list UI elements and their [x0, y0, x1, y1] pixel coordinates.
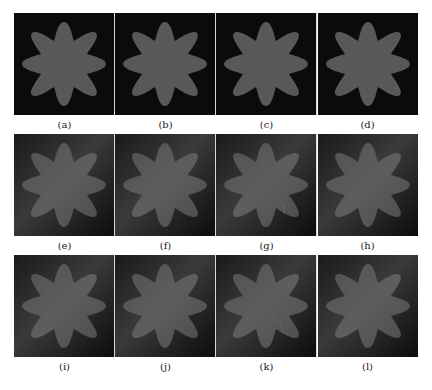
- panel-k: (k): [216, 255, 317, 376]
- star-shape-image: [216, 134, 316, 236]
- panel-b: (b): [115, 13, 216, 134]
- star-shape-image: [318, 13, 418, 115]
- panel-l: (l): [317, 255, 418, 376]
- panel-caption: (i): [14, 357, 115, 376]
- panel-caption: (f): [115, 236, 216, 255]
- star-shape-image: [115, 13, 215, 115]
- image-panel: [318, 134, 418, 236]
- panel-caption: (k): [216, 357, 317, 376]
- panel-d: (d): [317, 13, 418, 134]
- panel-caption: (l): [317, 357, 418, 376]
- image-panel: [216, 13, 317, 115]
- image-grid-figure: (a) (b) (c): [14, 13, 418, 376]
- star-shape-image: [318, 255, 418, 357]
- star-shape-image: [318, 134, 418, 236]
- panel-i: (i): [14, 255, 115, 376]
- image-panel: [318, 255, 418, 357]
- star-shape-image: [14, 255, 114, 357]
- image-panel: [216, 255, 317, 357]
- panel-caption: (d): [317, 115, 418, 134]
- panel-c: (c): [216, 13, 317, 134]
- image-panel: [318, 13, 418, 115]
- image-panel: [115, 134, 216, 236]
- image-panel: [14, 255, 115, 357]
- panel-caption: (g): [216, 236, 317, 255]
- image-panel: [14, 13, 115, 115]
- panel-e: (e): [14, 134, 115, 255]
- panel-f: (f): [115, 134, 216, 255]
- figure-row-1: (a) (b) (c): [14, 13, 418, 134]
- image-panel: [14, 134, 115, 236]
- panel-caption: (b): [115, 115, 216, 134]
- star-shape-image: [216, 255, 316, 357]
- panel-a: (a): [14, 13, 115, 134]
- panel-caption: (e): [14, 236, 115, 255]
- star-shape-image: [216, 13, 316, 115]
- star-shape-image: [115, 255, 215, 357]
- panel-h: (h): [317, 134, 418, 255]
- panel-caption: (c): [216, 115, 317, 134]
- image-panel: [216, 134, 317, 236]
- panel-j: (j): [115, 255, 216, 376]
- panel-caption: (h): [317, 236, 418, 255]
- panel-g: (g): [216, 134, 317, 255]
- star-shape-image: [14, 134, 114, 236]
- figure-row-3: (i) (j) (k): [14, 255, 418, 376]
- star-shape-image: [115, 134, 215, 236]
- figure-row-2: (e) (f) (g): [14, 134, 418, 255]
- star-shape-image: [14, 13, 114, 115]
- image-panel: [115, 255, 216, 357]
- image-panel: [115, 13, 216, 115]
- panel-caption: (j): [115, 357, 216, 376]
- panel-caption: (a): [14, 115, 115, 134]
